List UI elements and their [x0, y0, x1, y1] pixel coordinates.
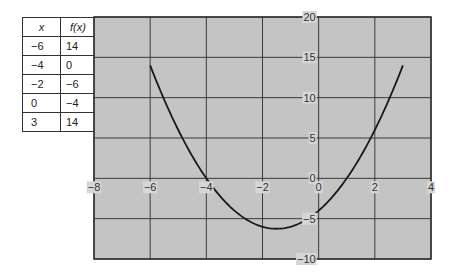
x-tick-label: −8 [88, 181, 101, 193]
x-tick-label: 4 [428, 181, 434, 193]
y-tick-label: −5 [303, 213, 316, 225]
x-tick-label: 2 [372, 181, 378, 193]
x-tick-label: −4 [200, 181, 213, 193]
x-tick-label: −2 [256, 181, 269, 193]
y-tick-label: −10 [297, 253, 316, 265]
function-graph: −8−6−4−2024−10−505101520 [0, 0, 456, 275]
y-tick-label: 15 [303, 51, 315, 63]
x-tick-label: −6 [144, 181, 157, 193]
y-tick-label: 5 [310, 132, 316, 144]
y-tick-label: 0 [310, 172, 316, 184]
y-tick-label: 20 [303, 11, 315, 23]
y-tick-label: 10 [303, 92, 315, 104]
